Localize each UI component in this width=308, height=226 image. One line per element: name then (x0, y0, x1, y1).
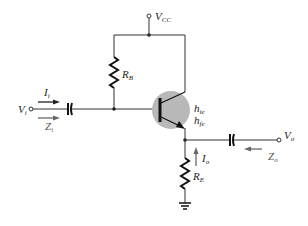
vcc-terminal (147, 14, 151, 37)
npn-transistor (152, 91, 190, 140)
ii-arrow (38, 100, 60, 105)
rb-resistor (110, 57, 118, 88)
zi-label: Zi (45, 120, 53, 134)
zo-arrow (244, 147, 262, 152)
vo-label: Vo (284, 129, 295, 143)
input-capacitor (68, 103, 72, 115)
zo-label: Zo (268, 150, 278, 164)
base-junction (112, 107, 116, 111)
output-capacitor (230, 134, 234, 146)
rb-label: RB (121, 68, 134, 82)
vcc-label: VCC (155, 10, 171, 24)
vi-label: Vi (18, 103, 27, 117)
hfe-label: hfe (194, 114, 205, 128)
ii-label: Ii (43, 86, 50, 100)
vo-terminal (277, 138, 281, 142)
re-label: RE (192, 170, 205, 184)
io-arrow (194, 147, 199, 166)
ground-icon (179, 203, 191, 209)
io-label: Io (201, 152, 210, 166)
vi-terminal (29, 107, 33, 111)
circuit-diagram: VCC RB Vi Ii Zi (0, 0, 308, 226)
re-resistor (181, 158, 189, 189)
